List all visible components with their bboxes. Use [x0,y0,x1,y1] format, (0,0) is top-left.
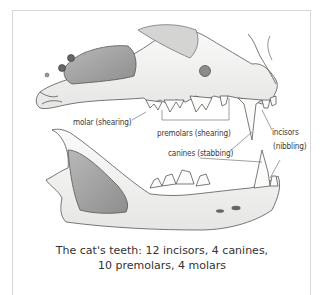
label-molar: molar (shearing) [73,116,131,127]
label-incisors: incisors [272,126,299,137]
caption-line-1: The cat's teeth: 12 incisors, 4 canines, [12,243,312,258]
caption-line-2: 10 premolars, 4 molars [12,258,312,273]
orbit-shade [64,46,136,84]
label-canines: canines (stabbing) [168,147,233,158]
label-premolars: premolars (shearing) [157,127,231,138]
figure-caption: The cat's teeth: 12 incisors, 4 canines,… [12,243,312,273]
label-incisors-function: (nibbling) [273,140,306,151]
lower-canine [254,150,270,188]
lower-jaw [46,129,280,230]
